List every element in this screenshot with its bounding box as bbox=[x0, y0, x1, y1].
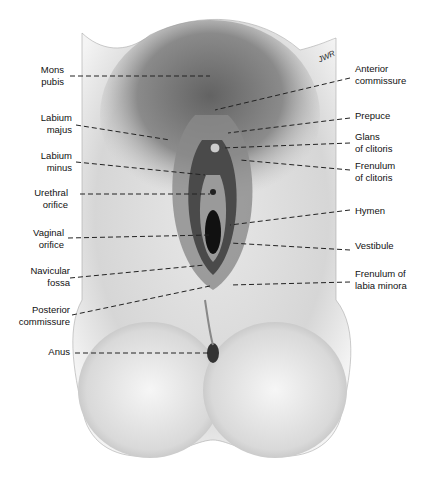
label-frenulum-of-clitoris: Frenulum of clitoris bbox=[355, 160, 395, 183]
label-frenulum-of-labia-minora: Frenulum of labia minora bbox=[355, 268, 407, 291]
label-vestibule: Vestibule bbox=[355, 240, 394, 252]
label-labium-minus: Labium minus bbox=[41, 150, 72, 173]
label-vaginal-orifice: Vaginal orifice bbox=[33, 227, 64, 250]
label-anus: Anus bbox=[48, 346, 70, 358]
label-hymen: Hymen bbox=[355, 205, 385, 217]
label-mons-pubis: Mons pubis bbox=[41, 64, 64, 87]
label-urethral-orifice: Urethral orifice bbox=[34, 187, 68, 210]
label-navicular-fossa: Navicular fossa bbox=[30, 265, 70, 288]
label-anterior-commissure: Anterior commissure bbox=[355, 63, 406, 86]
label-glans-of-clitoris: Glans of clitoris bbox=[355, 131, 392, 154]
label-prepuce: Prepuce bbox=[355, 110, 390, 122]
label-posterior-commissure: Posterior commissure bbox=[19, 304, 70, 327]
label-labium-majus: Labium majus bbox=[41, 112, 72, 135]
